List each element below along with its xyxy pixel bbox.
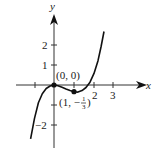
svg-text:1: 1 xyxy=(82,95,86,103)
point-origin-label: (0, 0) xyxy=(56,69,80,82)
point-origin xyxy=(51,82,56,87)
y-tick-label-1: 1 xyxy=(42,59,48,71)
y-tick-label-neg2: −2 xyxy=(35,119,47,131)
point-local-min-label: (1, − 1 3 ) xyxy=(59,95,91,111)
x-axis-label: x xyxy=(145,79,151,91)
x-tick-label-2: 2 xyxy=(92,89,98,101)
cubic-function-graph: x y 2 3 2 1 −2 (0, 0) (1, − 1 3 ) xyxy=(0,0,156,155)
svg-text:3: 3 xyxy=(82,103,86,111)
svg-text:): ) xyxy=(87,96,91,109)
y-tick-label-2: 2 xyxy=(42,39,48,51)
y-axis-label: y xyxy=(49,0,55,12)
x-tick-label-3: 3 xyxy=(110,89,116,101)
svg-text:(1, −: (1, − xyxy=(59,96,80,109)
point-local-min xyxy=(71,89,76,94)
